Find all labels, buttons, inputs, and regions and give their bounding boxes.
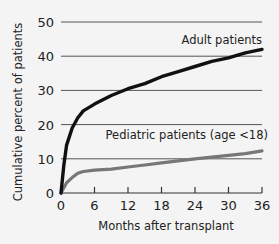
y-tick-label: 30 [37, 83, 54, 98]
series-lines [61, 49, 262, 193]
y-tick-label: 10 [37, 152, 54, 167]
y-tick-label: 40 [37, 49, 54, 64]
x-axis-label: Months after transplant [98, 219, 234, 233]
y-tick-label: 0 [46, 186, 54, 201]
adult-label: Adult patients [181, 33, 262, 47]
y-tick-label: 50 [37, 15, 54, 30]
series-line [61, 151, 262, 193]
y-axis-label: Cumulative percent of patients [11, 23, 25, 202]
x-tick-label: 12 [120, 198, 137, 213]
pediatric-label: Pediatric patients (age <18) [106, 128, 268, 142]
x-tick-label: 18 [153, 198, 170, 213]
x-axis-ticks: 061218243036 [57, 187, 270, 213]
x-tick-label: 24 [187, 198, 204, 213]
y-tick-label: 20 [37, 118, 54, 133]
y-axis-ticks: 01020304050 [37, 15, 54, 201]
x-tick-label: 0 [57, 198, 65, 213]
x-tick-label: 30 [220, 198, 237, 213]
x-tick-label: 36 [254, 198, 271, 213]
chart: 01020304050 061218243036 Adult patients … [0, 0, 279, 244]
x-tick-label: 6 [90, 198, 98, 213]
